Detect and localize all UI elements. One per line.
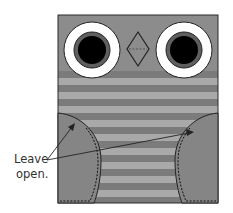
owl-pouch-diagram: Leave open. — [0, 0, 233, 213]
body-stripe — [58, 106, 218, 113]
left-eye — [64, 22, 120, 78]
body-stripe — [58, 92, 218, 99]
label-line-2: open. — [16, 167, 48, 181]
body-stripe — [58, 99, 218, 106]
left-eye-pupil — [78, 36, 106, 64]
right-eye-pupil — [170, 36, 198, 64]
body-stripe — [58, 85, 218, 92]
body-stripe — [58, 113, 218, 120]
body-stripe — [58, 78, 218, 85]
label-line-1: Leave — [14, 152, 48, 166]
leave-open-label: Leave open. — [14, 152, 48, 181]
right-eye — [156, 22, 212, 78]
